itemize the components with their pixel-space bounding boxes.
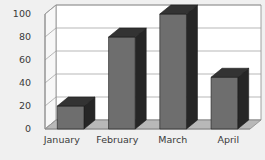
bar-front-face (109, 37, 136, 129)
bar-february[interactable] (109, 28, 147, 129)
bar-front-face (160, 14, 187, 129)
y-tick-label: 0 (25, 124, 31, 134)
x-tick-label: March (145, 135, 201, 145)
x-axis-category-labels: JanuaryFebruaryMarchApril (34, 135, 256, 155)
bar-april[interactable] (211, 68, 249, 129)
bar-january[interactable] (57, 97, 95, 129)
y-tick-label: 20 (19, 101, 31, 111)
bar-front-face (211, 77, 238, 129)
x-tick-label: April (201, 135, 257, 145)
plot-left-wall (45, 5, 56, 129)
y-axis-tick-labels: 100806040200 (0, 0, 31, 160)
bar-side-face (186, 5, 197, 129)
bar-front-face (57, 106, 84, 129)
x-tick-label: February (90, 135, 146, 145)
x-tick-label: January (34, 135, 90, 145)
y-tick-label: 40 (19, 78, 31, 88)
bar-chart-figure: 100806040200 JanuaryFebruaryMarchApril (0, 0, 265, 160)
y-tick-label: 60 (19, 55, 31, 65)
y-tick-label: 100 (13, 9, 31, 19)
bar-march[interactable] (160, 5, 198, 129)
y-tick-label: 80 (19, 32, 31, 42)
bar-side-face (135, 28, 146, 129)
bar-side-face (238, 68, 249, 129)
